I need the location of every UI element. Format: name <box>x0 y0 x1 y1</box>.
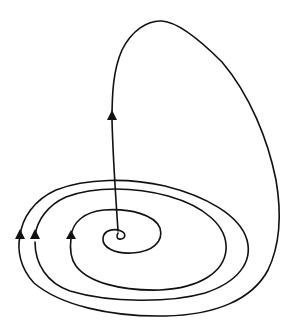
arrow-up-icon <box>30 229 40 239</box>
spiral-ring-inner <box>71 210 161 253</box>
trajectory-diagram <box>0 0 292 330</box>
arrow-up-icon <box>15 229 25 239</box>
direction-arrows <box>15 110 117 239</box>
trajectory-curves <box>19 21 279 316</box>
arrow-up-icon <box>66 230 76 239</box>
arrow-up-icon <box>107 110 117 120</box>
spiral-ring-outer <box>20 180 248 300</box>
spiral-ring-middle <box>35 189 226 290</box>
